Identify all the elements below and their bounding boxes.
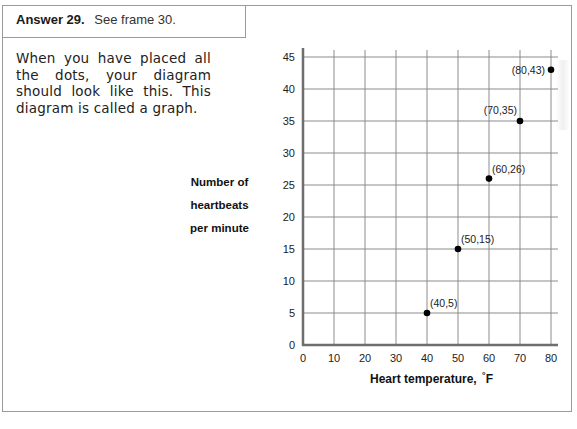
y-tick-label: 15	[283, 243, 295, 255]
data-point	[424, 310, 431, 317]
scatter-chart: 05101520253035404501020304050607080(40,5…	[0, 0, 577, 429]
y-tick-label: 45	[283, 51, 295, 63]
x-tick-label: 40	[421, 352, 433, 364]
data-point	[455, 246, 462, 253]
y-tick-label: 0	[289, 339, 295, 351]
x-tick-label: 10	[328, 352, 340, 364]
x-tick-label: 60	[483, 352, 495, 364]
y-tick-label: 25	[283, 179, 295, 191]
y-tick-label: 35	[283, 115, 295, 127]
x-tick-label: 20	[359, 352, 371, 364]
data-point-label: (60,26)	[492, 163, 525, 175]
data-point-label: (40,5)	[430, 297, 457, 309]
x-tick-label: 30	[390, 352, 402, 364]
data-point-label: (80,43)	[512, 64, 545, 76]
x-tick-label: 50	[452, 352, 464, 364]
data-point	[548, 67, 555, 74]
data-point	[517, 118, 524, 125]
y-tick-label: 10	[283, 275, 295, 287]
data-point-label: (70,35)	[484, 104, 517, 116]
x-tick-label: 70	[514, 352, 526, 364]
data-point	[486, 175, 493, 182]
y-tick-label: 40	[283, 83, 295, 95]
x-tick-label: 0	[300, 352, 306, 364]
y-tick-label: 5	[289, 307, 295, 319]
y-tick-label: 30	[283, 147, 295, 159]
x-tick-label: 80	[545, 352, 557, 364]
y-tick-label: 20	[283, 211, 295, 223]
data-point-label: (50,15)	[461, 233, 494, 245]
